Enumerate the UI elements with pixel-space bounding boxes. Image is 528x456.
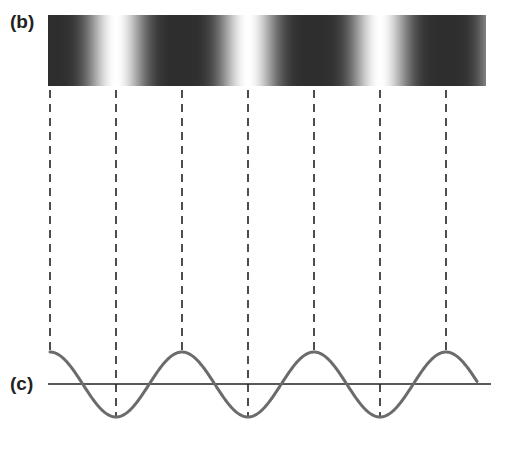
dashed-guide-lines [50, 90, 446, 417]
wave-diagram [0, 0, 528, 456]
